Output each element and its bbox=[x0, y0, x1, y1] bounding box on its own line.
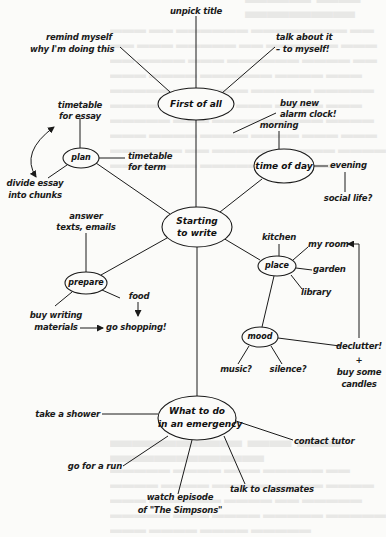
leaf-evening: evening bbox=[330, 160, 380, 171]
leaf-silence: silence? bbox=[266, 364, 310, 375]
edge-place-garden bbox=[296, 268, 312, 270]
edge-place-mood bbox=[262, 276, 274, 327]
node-starting-line2: to write bbox=[162, 227, 232, 239]
leaf-morning: morning bbox=[254, 120, 304, 131]
edge-mood-declutter bbox=[278, 338, 340, 346]
edge-emergency-classmates bbox=[224, 436, 245, 484]
node-plan: plan bbox=[63, 152, 99, 164]
leaf-plus: + bbox=[349, 355, 369, 366]
edge-start-prepare bbox=[101, 238, 167, 275]
leaf-buy-writing-line2: materials bbox=[30, 322, 82, 333]
leaf-timetable-term-line2: for term bbox=[128, 162, 188, 173]
edge-start-time bbox=[220, 179, 262, 212]
edge-emergency-simpsons bbox=[178, 440, 192, 494]
node-starting-line1: Starting bbox=[162, 215, 232, 227]
leaf-divide-line1: divide essay bbox=[4, 178, 66, 189]
leaf-go-for-run: go for a run bbox=[60, 461, 122, 472]
edge-emergency-run bbox=[123, 436, 168, 466]
leaf-simpsons-line1: watch episode bbox=[140, 492, 220, 503]
leaf-timetable-essay-line2: for essay bbox=[52, 111, 108, 122]
leaf-divide-line2: into chunks bbox=[4, 190, 66, 201]
leaf-buy-clock-line2: alarm clock! bbox=[280, 109, 350, 120]
leaf-answer-line2: texts, emails bbox=[52, 222, 120, 233]
leaf-go-shopping: go shopping! bbox=[106, 322, 176, 333]
edge-emergency-tutor bbox=[233, 420, 293, 440]
leaf-candles-line2: candles bbox=[334, 379, 384, 390]
leaf-timetable-essay-line1: timetable bbox=[52, 100, 108, 111]
leaf-unpick-title: unpick title bbox=[166, 6, 226, 17]
node-first-of-all: First of all bbox=[158, 98, 234, 110]
edge-mood-silence bbox=[271, 346, 282, 364]
edge-place-myroom bbox=[293, 247, 308, 260]
leaf-buy-clock-line1: buy new bbox=[280, 98, 350, 109]
leaf-talk-classmates: talk to classmates bbox=[230, 484, 320, 495]
leaf-remind-line2: why I'm doing this bbox=[30, 44, 112, 55]
leaf-my-room: my room bbox=[308, 239, 350, 250]
leaf-buy-writing-line1: buy writing bbox=[28, 310, 84, 321]
leaf-social-life: social life? bbox=[318, 193, 378, 204]
arrow-declutter-myroom bbox=[348, 244, 359, 338]
edge-start-place bbox=[223, 238, 260, 260]
leaf-answer-line1: answer bbox=[56, 211, 116, 222]
leaf-garden: garden bbox=[313, 264, 355, 275]
leaf-candles-line1: buy some bbox=[334, 367, 384, 378]
leaf-talk-line1: talk about it bbox=[276, 32, 346, 43]
leaf-music: music? bbox=[216, 364, 256, 375]
leaf-library: library bbox=[301, 287, 343, 298]
leaf-talk-line2: – to myself! bbox=[276, 44, 346, 55]
node-mood: mood bbox=[242, 331, 278, 343]
node-time-of-day: time of day bbox=[254, 160, 314, 172]
node-prepare: prepare bbox=[65, 277, 107, 289]
edge-prepare-buy bbox=[55, 292, 72, 306]
arrow-essay-divide bbox=[31, 127, 54, 177]
edge-first-talk bbox=[222, 47, 275, 93]
leaf-simpsons-line2: of "The Simpsons" bbox=[135, 505, 225, 516]
leaf-take-shower: take a shower bbox=[30, 409, 100, 420]
edge-plan-divide bbox=[48, 165, 67, 178]
leaf-contact-tutor: contact tutor bbox=[294, 436, 364, 447]
node-emergency-line2: in an emergency bbox=[158, 418, 236, 430]
leaf-timetable-term-line1: timetable bbox=[128, 151, 188, 162]
edge-mood-music bbox=[238, 346, 249, 364]
node-place: place bbox=[258, 260, 296, 272]
leaf-declutter: declutter! bbox=[334, 341, 384, 352]
edge-first-remind bbox=[120, 47, 170, 92]
edge-prepare-food bbox=[102, 290, 120, 298]
leaf-remind-line1: remind myself bbox=[40, 32, 112, 43]
node-emergency-line1: What to do bbox=[158, 405, 236, 417]
leaf-food: food bbox=[124, 291, 154, 302]
leaf-kitchen: kitchen bbox=[258, 232, 300, 243]
